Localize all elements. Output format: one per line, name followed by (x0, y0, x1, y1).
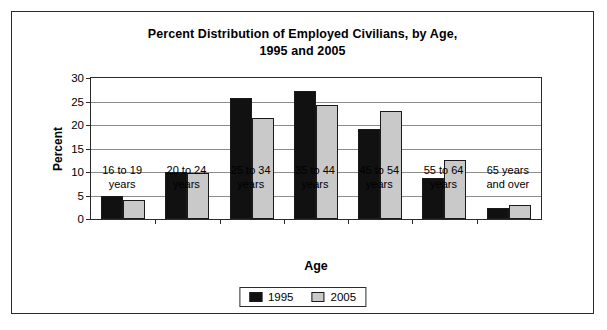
x-category-label: 55 to 64years (411, 164, 477, 191)
plot-area: 051015202530 (90, 77, 542, 220)
chart-title: Percent Distribution of Employed Civilia… (12, 26, 593, 60)
x-category-label: 20 to 24years (153, 164, 219, 191)
x-category-label-line: 25 to 34 (218, 164, 284, 178)
legend-item-1995: 1995 (249, 291, 294, 303)
x-tick-mark (412, 219, 413, 224)
legend-swatch-1995 (249, 292, 262, 302)
bar-group (477, 78, 541, 219)
bar-group (91, 78, 155, 219)
x-category-label-line: 65 years (475, 164, 541, 178)
y-tick-label: 15 (71, 143, 84, 155)
y-tick-label: 0 (78, 213, 84, 225)
x-category-label-line: years (218, 178, 284, 192)
legend-swatch-2005 (312, 292, 325, 302)
x-category-label-line: and over (475, 178, 541, 192)
x-category-label-line: years (153, 178, 219, 192)
bar-group (348, 78, 412, 219)
chart-title-line-1: Percent Distribution of Employed Civilia… (12, 26, 593, 43)
x-category-label-line: 20 to 24 (153, 164, 219, 178)
bar-1995-1 (101, 196, 123, 220)
x-category-label: 45 to 54years (346, 164, 412, 191)
x-tick-mark (477, 219, 478, 224)
y-tick-label: 30 (71, 72, 84, 84)
x-category-label: 35 to 44years (282, 164, 348, 191)
legend-item-2005: 2005 (312, 291, 357, 303)
bar-group (412, 78, 476, 219)
bar-1995-3 (230, 98, 252, 219)
x-category-label: 16 to 19years (89, 164, 155, 191)
x-category-label: 65 yearsand over (475, 164, 541, 191)
legend-label-1995: 1995 (268, 291, 294, 303)
x-category-label-line: 45 to 54 (346, 164, 412, 178)
chart-figure: Percent Distribution of Employed Civilia… (11, 11, 594, 314)
x-category-label-line: 55 to 64 (411, 164, 477, 178)
bar-2005-4 (316, 105, 338, 219)
x-category-label-line: years (346, 178, 412, 192)
x-category-label-line: 35 to 44 (282, 164, 348, 178)
y-tick-mark (86, 219, 91, 220)
bar-group (155, 78, 219, 219)
y-tick-label: 10 (71, 166, 84, 178)
x-tick-mark (220, 219, 221, 224)
x-tick-mark (348, 219, 349, 224)
x-category-label: 25 to 34years (218, 164, 284, 191)
y-tick-label: 5 (78, 190, 84, 202)
bar-2005-1 (123, 200, 145, 219)
x-axis-title: Age (90, 259, 542, 273)
y-axis-title: Percent (51, 89, 65, 209)
chart-legend: 1995 2005 (239, 287, 366, 307)
x-tick-mark (155, 219, 156, 224)
legend-label-2005: 2005 (331, 291, 357, 303)
x-tick-mark (284, 219, 285, 224)
bar-group (220, 78, 284, 219)
x-category-label-line: 16 to 19 (89, 164, 155, 178)
chart-title-line-2: 1995 and 2005 (12, 43, 593, 60)
y-tick-label: 20 (71, 119, 84, 131)
x-category-label-line: years (282, 178, 348, 192)
bar-1995-4 (294, 91, 316, 219)
bar-1995-7 (487, 208, 509, 219)
bar-series-container (91, 78, 541, 219)
bar-group (284, 78, 348, 219)
y-tick-label: 25 (71, 96, 84, 108)
x-category-label-line: years (411, 178, 477, 192)
x-category-label-line: years (89, 178, 155, 192)
bar-2005-7 (509, 205, 531, 219)
